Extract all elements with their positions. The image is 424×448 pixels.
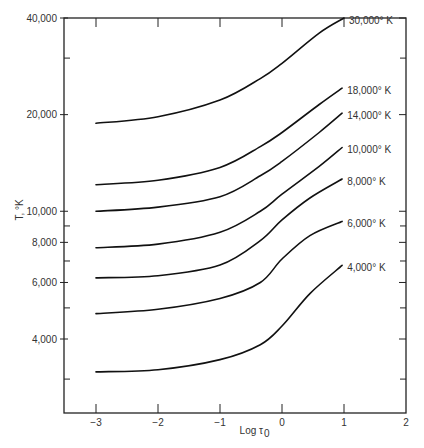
curves (96, 18, 344, 372)
chart-figure: −3−2−10124,0006,0008,00010,00020,00040,0… (0, 0, 424, 448)
curve-label: 30,000° K (349, 15, 393, 26)
y-tick-label: 4,000 (32, 334, 57, 345)
y-tick-label: 10,000 (26, 206, 57, 217)
x-tick-label: −1 (214, 417, 226, 428)
y-tick-label: 20,000 (26, 109, 57, 120)
curve-14000k (96, 113, 342, 211)
curve-label: 14,000° K (347, 110, 391, 121)
curve-label: 10,000° K (347, 144, 391, 155)
x-tick-label: −2 (152, 417, 164, 428)
curve-8000k (96, 179, 342, 278)
y-tick-label: 8,000 (32, 237, 57, 248)
x-axis-title: Log τ (240, 425, 263, 436)
x-tick-label: 0 (279, 417, 285, 428)
x-axis-title-subscript: 0 (264, 428, 270, 439)
plot-border (64, 18, 406, 413)
x-tick-label: 2 (403, 417, 409, 428)
y-axis-title: T, °K (14, 199, 25, 221)
curve-label: 6,000° K (347, 218, 386, 229)
x-tick-label: −3 (90, 417, 102, 428)
curve-label: 4,000° K (347, 262, 386, 273)
curve-labels: 30,000° K18,000° K14,000° K10,000° K8,00… (347, 15, 393, 273)
curve-18000k (96, 88, 342, 185)
curve-label: 18,000° K (347, 85, 391, 96)
x-tick-label: 1 (341, 417, 347, 428)
curve-4000k (96, 265, 342, 372)
curve-30000k (96, 18, 344, 123)
plot-frame (64, 18, 406, 413)
curve-label: 8,000° K (347, 176, 386, 187)
y-tick-label: 6,000 (32, 277, 57, 288)
y-tick-label: 40,000 (26, 13, 57, 24)
